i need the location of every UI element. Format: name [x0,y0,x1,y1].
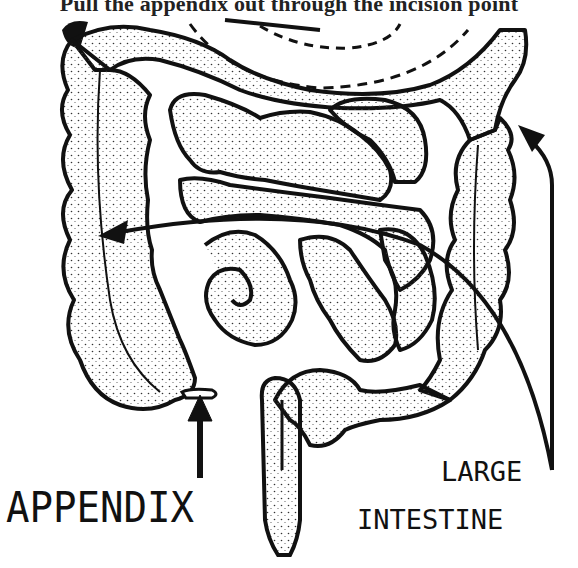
large-intestine-arrow [518,125,552,470]
small-intestine [170,94,435,361]
label-large-intestine-line1: LARGE [441,458,522,485]
label-large-intestine-line2: INTESTINE [357,506,503,533]
appendix-arrow [188,395,212,478]
label-appendix: APPENDIX [6,487,194,529]
large-intestine [62,27,526,446]
